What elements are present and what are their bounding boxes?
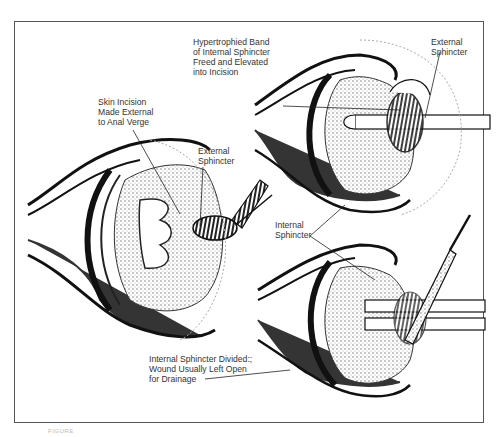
label-internal-sphincter-divided: Internal Sphincter Divided:; Wound Usual… [149, 354, 252, 384]
label-external-sphincter-left: External Sphincter [198, 146, 234, 166]
figure-caption: FIGURE [48, 428, 74, 434]
top-right-panel-drawing [255, 40, 490, 215]
left-panel-drawing [28, 130, 272, 340]
label-external-sphincter-right: External Sphincter [431, 37, 467, 57]
label-skin-incision: Skin Incision Made External to Anal Verg… [98, 97, 153, 127]
label-internal-sphincter: Internal Sphincter [275, 220, 311, 240]
label-hypertrophied-band: Hypertrophied Band of Internal Sphincter… [193, 37, 270, 77]
